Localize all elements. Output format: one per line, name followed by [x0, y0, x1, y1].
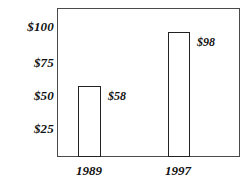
- y-axis-tick-label-25: $25: [0, 122, 54, 135]
- y-axis-tick-label-50: $50: [0, 89, 54, 102]
- bar-value-label-1989: $58: [108, 90, 126, 102]
- y-axis-tick-label-100: $100: [0, 20, 54, 33]
- bar-1989: [78, 86, 101, 157]
- x-axis-tick-label-1989: 1989: [62, 164, 116, 178]
- bar-chart: $100 $75 $50 $25 $58 $98 1989 1997: [0, 0, 251, 189]
- bar-1997: [168, 32, 190, 157]
- x-axis-tick-label-1997: 1997: [151, 164, 205, 178]
- plot-area: $58 $98: [57, 8, 240, 157]
- y-axis: $100 $75 $50 $25: [0, 0, 54, 189]
- y-axis-tick-label-75: $75: [0, 56, 54, 69]
- bar-value-label-1997: $98: [197, 36, 215, 48]
